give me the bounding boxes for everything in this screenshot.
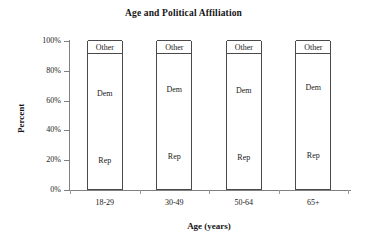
bar-segment-label: Other bbox=[88, 43, 122, 52]
stacked-bar[interactable]: RepDemOther bbox=[87, 41, 123, 190]
x-axis-title: Age (years) bbox=[70, 221, 348, 231]
bar-segment-label: Other bbox=[296, 43, 330, 52]
chart-title: Age and Political Affiliation bbox=[0, 8, 367, 18]
x-axis-line bbox=[69, 190, 351, 191]
y-tick-mark bbox=[64, 160, 69, 161]
bar-segment-label: Rep bbox=[88, 155, 122, 164]
bar-segment-other[interactable]: Other bbox=[227, 40, 261, 53]
bar-segment-rep[interactable]: Rep bbox=[227, 125, 261, 189]
x-tick-mark bbox=[140, 190, 141, 194]
bar-segment-dem[interactable]: Dem bbox=[296, 53, 330, 120]
bar-segment-rep[interactable]: Rep bbox=[88, 131, 122, 189]
x-tick-label: 30-49 bbox=[139, 198, 209, 207]
bar-segment-label: Other bbox=[227, 43, 261, 52]
y-tick-label: 0% bbox=[21, 185, 61, 194]
bar-segment-other[interactable]: Other bbox=[296, 40, 330, 53]
y-tick-label: 40% bbox=[21, 125, 61, 134]
bar-segment-label: Rep bbox=[296, 150, 330, 159]
y-tick-mark bbox=[64, 190, 69, 191]
y-tick-mark bbox=[64, 41, 69, 42]
y-tick-label: 100% bbox=[21, 36, 61, 45]
bar-segment-dem[interactable]: Dem bbox=[88, 53, 122, 130]
bar-segment-label: Dem bbox=[88, 88, 122, 97]
bar-segment-label: Rep bbox=[227, 152, 261, 161]
y-tick-mark bbox=[64, 101, 69, 102]
x-tick-mark bbox=[70, 190, 71, 194]
stacked-bar[interactable]: RepDemOther bbox=[295, 41, 331, 190]
bar-segment-rep[interactable]: Rep bbox=[296, 120, 330, 189]
bar-segment-label: Other bbox=[157, 43, 191, 52]
y-tick-label: 80% bbox=[21, 66, 61, 75]
stacked-bar[interactable]: RepDemOther bbox=[226, 41, 262, 190]
y-tick-mark bbox=[64, 130, 69, 131]
bar-segment-label: Dem bbox=[296, 83, 330, 92]
y-tick-label: 60% bbox=[21, 96, 61, 105]
x-tick-mark bbox=[209, 190, 210, 194]
y-tick-label: 20% bbox=[21, 155, 61, 164]
bar-segment-dem[interactable]: Dem bbox=[227, 53, 261, 125]
bar-segment-other[interactable]: Other bbox=[88, 40, 122, 53]
x-tick-mark bbox=[279, 190, 280, 194]
y-tick-mark bbox=[64, 71, 69, 72]
chart-figure: Age and Political Affiliation Percent 0%… bbox=[0, 0, 367, 247]
x-tick-label: 65+ bbox=[278, 198, 348, 207]
bar-segment-label: Dem bbox=[157, 84, 191, 93]
bar-segment-dem[interactable]: Dem bbox=[157, 53, 191, 123]
stacked-bar[interactable]: RepDemOther bbox=[156, 41, 192, 190]
bar-segment-label: Dem bbox=[227, 85, 261, 94]
x-tick-mark bbox=[348, 190, 349, 194]
bar-segment-other[interactable]: Other bbox=[157, 40, 191, 53]
bar-segment-rep[interactable]: Rep bbox=[157, 123, 191, 189]
plot-area: RepDemOtherRepDemOtherRepDemOtherRepDemO… bbox=[70, 41, 348, 190]
bar-segment-label: Rep bbox=[157, 152, 191, 161]
x-tick-label: 50-64 bbox=[209, 198, 279, 207]
x-tick-label: 18-29 bbox=[70, 198, 140, 207]
